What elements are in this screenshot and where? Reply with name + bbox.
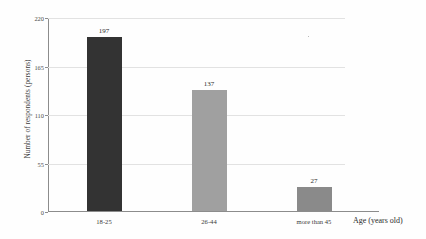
y-tick-label: 220 <box>34 15 44 22</box>
y-tick-label: 165 <box>34 63 44 70</box>
plot-area: 055110165220 19713727 18-2526-44more tha… <box>48 18 345 212</box>
bar-value-label: 137 <box>204 80 215 88</box>
bar-value-label: 197 <box>99 27 110 35</box>
bar: 27 <box>297 187 332 211</box>
gridline <box>48 18 345 19</box>
x-axis-title: Age (years old) <box>353 216 403 225</box>
x-tick-label: more than 45 <box>297 218 332 225</box>
x-tick-label: 26-44 <box>201 218 216 225</box>
y-tick-label: 0 <box>41 209 44 216</box>
bar: 137 <box>192 90 227 211</box>
y-axis-title: Number of respondents (persons) <box>24 24 32 194</box>
x-axis-line <box>48 211 379 212</box>
bar: 197 <box>87 37 122 211</box>
y-tick-label: 55 <box>38 160 44 167</box>
y-tick-mark <box>45 18 48 19</box>
y-tick-label: 110 <box>35 112 44 119</box>
y-tick-mark <box>45 212 48 213</box>
x-tick-label: 18-25 <box>96 218 111 225</box>
chart-figure: Number of respondents (persons) 05511016… <box>0 0 426 239</box>
bar-value-label: 27 <box>311 177 318 185</box>
y-tick-mark <box>45 164 48 165</box>
scan-artifact-speck <box>308 36 309 37</box>
y-tick-mark <box>45 115 48 116</box>
y-tick-mark <box>45 67 48 68</box>
